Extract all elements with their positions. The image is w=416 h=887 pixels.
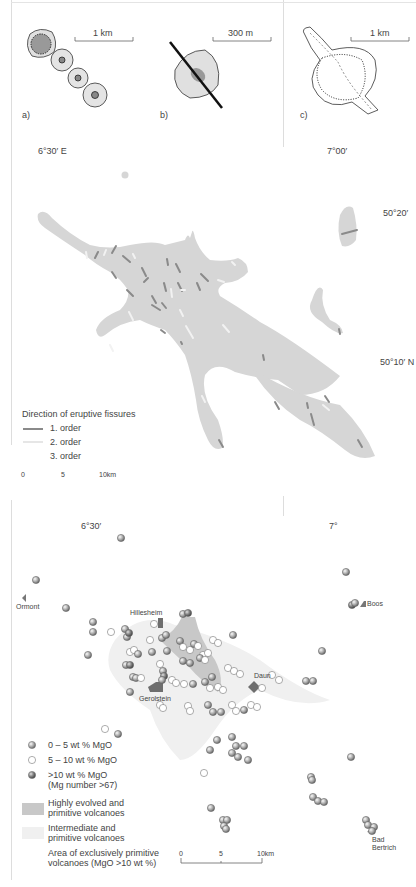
- volcano-dot-0-5-mgo: [318, 647, 325, 654]
- volcano-dot-0-5-mgo: [204, 701, 211, 708]
- volcano-dot-0-5-mgo: [62, 604, 69, 611]
- place-bad-bertrich-2: Bertrich: [372, 844, 396, 851]
- volcano-dot-5-10-mgo: [179, 643, 186, 650]
- volcano-dot-0-5-mgo: [213, 736, 220, 743]
- volcano-dot-0-5-mgo: [89, 628, 96, 635]
- bottom-scalebar: [181, 858, 262, 863]
- volcano-dot-gt10-mgo: [125, 629, 132, 636]
- volcano-dot-5-10-mgo: [204, 649, 211, 656]
- legend-dot-dark-sublabel: (Mg number >67): [48, 780, 117, 790]
- volcano-dot-0-5-mgo: [229, 631, 236, 638]
- volcano-dot-5-10-mgo: [201, 656, 208, 663]
- boos-marker: [360, 601, 366, 607]
- volcano-dot-0-5-mgo: [240, 706, 247, 713]
- legend-area-3-line1: Area of exclusively primitive: [48, 848, 159, 858]
- volcano-composition-map: [0, 0, 416, 887]
- volcano-dot-5-10-mgo: [275, 676, 282, 683]
- volcano-dot-5-10-mgo: [236, 670, 243, 677]
- volcano-dot-0-5-mgo: [342, 568, 349, 575]
- volcano-dot-0-5-mgo: [186, 659, 193, 666]
- volcano-dot-0-5-mgo: [222, 825, 229, 832]
- volcano-dot-0-5-mgo: [114, 730, 121, 737]
- legend-area-2-line2: primitive volcanoes: [48, 833, 125, 843]
- bottom-scale-tick-10: 10km: [257, 850, 274, 857]
- volcano-dot-0-5-mgo: [126, 688, 133, 695]
- volcano-dot-0-5-mgo: [207, 804, 214, 811]
- volcano-dot-gt10-mgo: [126, 661, 133, 668]
- volcano-dot-0-5-mgo: [32, 576, 39, 583]
- volcano-dot-0-5-mgo: [351, 599, 358, 606]
- place-gerolstein: Gerolstein: [139, 695, 171, 702]
- volcano-dot-5-10-mgo: [194, 642, 201, 649]
- volcano-dot-0-5-mgo: [179, 657, 186, 664]
- volcano-dot-0-5-mgo: [232, 742, 239, 749]
- volcano-dot-5-10-mgo: [146, 636, 153, 643]
- legend-area-3-line2: volcanoes (MgO >10 wt %): [48, 858, 156, 868]
- volcano-dot-5-10-mgo: [159, 704, 166, 711]
- hillesheim-marker: [158, 618, 163, 628]
- volcano-dot-0-5-mgo: [308, 776, 315, 783]
- volcano-dot-0-5-mgo: [244, 756, 251, 763]
- volcano-dot-0-5-mgo: [347, 753, 354, 760]
- volcano-dot-0-5-mgo: [189, 680, 196, 687]
- volcano-dot-0-5-mgo: [209, 708, 216, 715]
- legend-intermediate-swatch: [22, 827, 44, 839]
- place-bad-bertrich-1: Bad: [372, 836, 384, 843]
- place-hillesheim: Hillesheim: [130, 609, 162, 616]
- volcano-dot-0-5-mgo: [163, 647, 170, 654]
- volcano-dot-gt10-mgo: [184, 609, 191, 616]
- ormont-marker: [22, 594, 26, 602]
- legend-area-2-line1: Intermediate and: [48, 823, 116, 833]
- volcano-dot-5-10-mgo: [232, 707, 239, 714]
- legend-area-1-line1: Highly evolved and: [48, 798, 124, 808]
- legend-dot-grey-icon: [28, 741, 35, 748]
- volcano-dot-0-5-mgo: [201, 678, 208, 685]
- volcano-dot-5-10-mgo: [258, 684, 265, 691]
- volcano-dot-0-5-mgo: [117, 534, 124, 541]
- place-daun: Daun: [254, 672, 271, 679]
- volcano-dot-5-10-mgo: [206, 684, 213, 691]
- volcano-dot-0-5-mgo: [234, 753, 241, 760]
- volcano-dot-0-5-mgo: [148, 648, 155, 655]
- legend-dot-white-icon: [28, 756, 35, 763]
- bottom-scale-tick-5: 5: [219, 850, 223, 857]
- volcano-dot-5-10-mgo: [101, 725, 108, 732]
- volcano-dot-0-5-mgo: [320, 798, 327, 805]
- volcano-dot-5-10-mgo: [107, 628, 114, 635]
- volcano-dot-0-5-mgo: [84, 651, 91, 658]
- volcano-dot-0-5-mgo: [228, 733, 235, 740]
- volcano-dot-0-5-mgo: [162, 631, 169, 638]
- volcano-dot-0-5-mgo: [217, 708, 224, 715]
- volcano-dot-0-5-mgo: [158, 676, 165, 683]
- legend-highly-evolved-swatch: [22, 803, 44, 815]
- volcano-dot-0-5-mgo: [302, 677, 309, 684]
- legend-dot-dark-label: >10 wt % MgO: [48, 770, 107, 780]
- place-ormont: Ormont: [16, 603, 39, 610]
- volcano-dot-0-5-mgo: [368, 827, 375, 834]
- volcano-dot-5-10-mgo: [186, 707, 193, 714]
- volcano-dot-5-10-mgo: [200, 769, 207, 776]
- volcano-dot-0-5-mgo: [134, 650, 141, 657]
- volcano-dot-0-5-mgo: [206, 746, 213, 753]
- legend-dot-white-label: 5 – 10 wt % MgO: [48, 755, 117, 765]
- legend-dot-dark-icon: [28, 771, 35, 778]
- legend-area-1-line2: primitive volcanoes: [48, 808, 125, 818]
- volcano-dot-0-5-mgo: [240, 742, 247, 749]
- volcano-dot-0-5-mgo: [309, 677, 316, 684]
- volcano-dot-5-10-mgo: [219, 686, 226, 693]
- legend-dot-grey-label: 0 – 5 wt % MgO: [48, 740, 112, 750]
- volcano-dot-5-10-mgo: [214, 639, 221, 646]
- volcano-dot-5-10-mgo: [253, 703, 260, 710]
- place-boos: Boos: [367, 600, 383, 607]
- volcano-dot-5-10-mgo: [156, 660, 163, 667]
- volcano-dot-5-10-mgo: [150, 620, 157, 627]
- volcano-dot-5-10-mgo: [180, 680, 187, 687]
- bottom-scale-tick-0: 0: [179, 850, 183, 857]
- volcano-dot-5-10-mgo: [172, 679, 179, 686]
- volcano-dot-0-5-mgo: [89, 618, 96, 625]
- volcano-dot-5-10-mgo: [137, 674, 144, 681]
- volcano-dot-0-5-mgo: [208, 673, 215, 680]
